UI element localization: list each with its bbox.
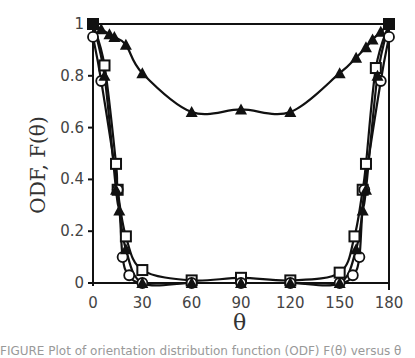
- x-tick-label: 60: [182, 294, 201, 312]
- circle-marker: [124, 270, 134, 280]
- circle-marker: [88, 32, 98, 42]
- circle-marker: [384, 32, 394, 42]
- y-tick-label: 0.6: [60, 119, 84, 137]
- y-axis-label: ODF, F(θ): [26, 105, 50, 225]
- x-tick-label: 150: [325, 294, 354, 312]
- triangle-marker: [113, 204, 125, 215]
- x-tick-label: 0: [88, 294, 98, 312]
- y-tick-label: 0: [74, 274, 84, 292]
- square-marker: [121, 231, 131, 241]
- plot-frame: [89, 24, 389, 290]
- x-tick-label: 120: [276, 294, 305, 312]
- triangle-marker: [284, 106, 296, 117]
- series-line: [93, 24, 389, 285]
- series-line: [93, 24, 389, 114]
- y-tick-label: 0.8: [60, 67, 84, 85]
- y-tick-label: 1: [74, 15, 84, 33]
- square-marker: [349, 231, 359, 241]
- square-marker: [137, 265, 147, 275]
- square-marker: [335, 268, 345, 278]
- series-line: [93, 37, 389, 284]
- square-marker: [100, 60, 110, 70]
- triangle-marker: [186, 106, 198, 117]
- series-lines: [93, 24, 389, 285]
- square-marker: [371, 63, 381, 73]
- figure-caption: FIGURE Plot of orientation distribution …: [0, 344, 401, 358]
- triangle-marker: [357, 204, 369, 215]
- x-axis-label: θ: [233, 310, 246, 335]
- y-tick-label: 0.4: [60, 170, 84, 188]
- square-marker: [111, 159, 121, 169]
- x-tick-label: 30: [133, 294, 152, 312]
- series-line: [93, 24, 389, 281]
- x-tick-label: 180: [375, 294, 404, 312]
- y-tick-label: 0.2: [60, 222, 84, 240]
- circle-marker: [348, 270, 358, 280]
- square-marker: [361, 159, 371, 169]
